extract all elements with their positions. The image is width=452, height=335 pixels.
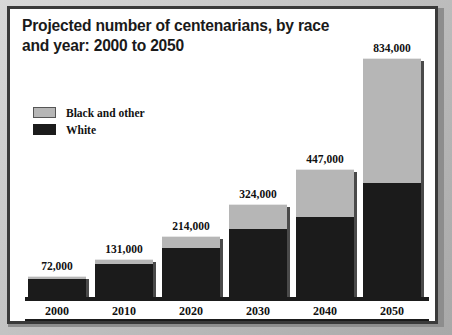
- bar-column: [363, 58, 421, 297]
- x-axis-tick-2020: 2020: [154, 303, 228, 319]
- bar-shadow: [153, 262, 156, 297]
- bar-column: [28, 276, 86, 297]
- bar-value-label: 72,000: [16, 260, 98, 272]
- bar-segment-black-and-other: [363, 58, 421, 183]
- x-axis-tick-2040: 2040: [288, 303, 362, 319]
- bar-segment-black-and-other: [229, 204, 287, 229]
- bar-shadow: [421, 61, 424, 297]
- bar-shadow: [86, 279, 89, 297]
- x-axis-tick-2000: 2000: [20, 303, 94, 319]
- bar-segment-white: [28, 279, 86, 297]
- chart-screenshot: Projected number of centenarians, by rac…: [0, 0, 452, 335]
- bar-value-label: 214,000: [150, 220, 232, 232]
- bar-segment-white: [162, 248, 220, 297]
- plot-area: 72,000131,000214,000324,000447,000834,00…: [14, 13, 431, 317]
- x-axis-tick-2030: 2030: [221, 303, 295, 319]
- bar-segment-white: [363, 183, 421, 297]
- bar-shadow: [287, 207, 290, 297]
- bar-value-label: 324,000: [217, 188, 299, 200]
- bar-shadow: [220, 239, 223, 297]
- bar-column: [229, 204, 287, 297]
- bar-value-label: 447,000: [284, 153, 366, 165]
- bar-segment-black-and-other: [162, 236, 220, 248]
- bar-value-label: 834,000: [351, 42, 433, 54]
- bar-segment-white: [296, 217, 354, 297]
- bar-value-label: 131,000: [83, 243, 165, 255]
- bar-segment-white: [95, 264, 153, 297]
- x-axis-tick-2010: 2010: [87, 303, 161, 319]
- bar-column: [95, 259, 153, 297]
- bar-segment-black-and-other: [296, 169, 354, 217]
- bar-segment-white: [229, 229, 287, 297]
- bar-shadow: [354, 172, 357, 297]
- bar-column: [162, 236, 220, 297]
- bar-column: [296, 169, 354, 297]
- x-axis-tick-2050: 2050: [355, 303, 429, 319]
